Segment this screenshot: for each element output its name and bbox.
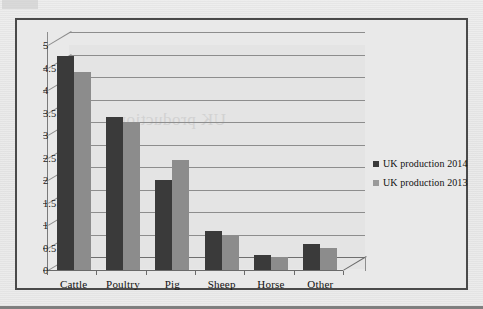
x-axis-category-label: Other [307,278,333,290]
legend-item: UK production 2014 [373,158,465,169]
bar [172,160,189,270]
bar-series-layer [47,32,343,271]
x-axis-category-label: Pig [165,278,180,290]
bar [155,180,172,270]
x-axis-category-label: Cattle [60,278,87,290]
x-axis-tick [96,271,97,275]
x-axis-category-label: Sheep [208,278,236,290]
bar-group [303,45,337,270]
bar [222,236,239,270]
bar [57,56,74,270]
chart-frame: UK production 00.511.522.533.544.55 Catt… [15,18,468,290]
bar-group [57,45,91,270]
bar [123,122,140,271]
bar [320,248,337,271]
legend-swatch-2013-icon [373,180,379,186]
scan-artifact-top [2,0,38,9]
legend-item: UK production 2013 [373,177,465,188]
bar [303,244,320,270]
x-axis-tick [294,271,295,275]
legend-swatch-2014-icon [373,161,379,167]
bar [106,117,123,270]
x-axis-tick [343,271,344,275]
bar [254,255,271,270]
x-axis-tick [195,271,196,275]
x-axis-tick [146,271,147,275]
legend-label: UK production 2014 [383,158,468,169]
plot-area: UK production 00.511.522.533.544.55 Catt… [47,32,365,272]
legend-label: UK production 2013 [383,177,468,188]
bar [271,257,288,270]
bar [205,231,222,270]
bar [74,72,91,270]
x-axis-tick [47,271,48,275]
floor-right-edge [343,257,367,271]
bar-group [106,45,140,270]
bar-group [205,45,239,270]
scanned-page: UK production 00.511.522.533.544.55 Catt… [0,0,483,309]
chart-legend: UK production 2014 UK production 2013 [373,158,465,196]
x-axis-category-label: Poultry [106,278,140,290]
bar-group [155,45,189,270]
x-axis-tick [244,271,245,275]
bar-group [254,45,288,270]
x-axis-category-label: Horse [257,278,284,290]
